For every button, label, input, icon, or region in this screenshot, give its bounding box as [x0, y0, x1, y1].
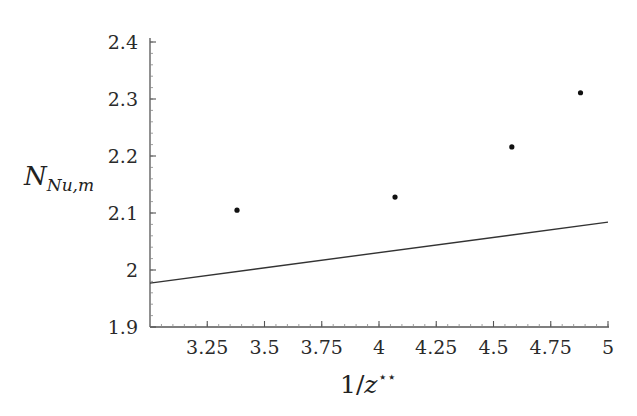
x-tick-label: 4.75 [530, 336, 572, 358]
y-tick-label: 2.4 [108, 31, 138, 53]
x-tick-label: 3.75 [301, 336, 343, 358]
y-tick-label: 1.9 [108, 316, 138, 338]
data-point [578, 90, 583, 95]
data-points [234, 90, 583, 213]
x-axis-label: 1/z⋆⋆ [340, 368, 396, 399]
fit-line-path [150, 222, 608, 283]
y-tick-label: 2 [126, 259, 138, 281]
axes [150, 38, 609, 327]
x-tick-label: 5 [602, 336, 614, 358]
x-tick-label: 3.5 [249, 336, 279, 358]
minor-ticks [150, 42, 608, 327]
data-point [392, 194, 397, 199]
x-tick-label: 3.25 [186, 336, 228, 358]
major-ticks [150, 42, 608, 327]
y-tick-label: 2.1 [108, 202, 138, 224]
x-tick-label: 4.25 [415, 336, 457, 358]
data-point [234, 208, 239, 213]
x-tick-label: 4.5 [478, 336, 508, 358]
y-tick-label: 2.2 [108, 145, 138, 167]
y-axis-label: NNu,m [23, 161, 94, 195]
x-tick-label: 4 [373, 336, 385, 358]
data-point [509, 144, 514, 149]
y-tick-label: 2.3 [108, 88, 138, 110]
x-tick-labels: 3.253.53.7544.254.54.755 [186, 336, 614, 358]
fit-line [150, 222, 608, 283]
y-tick-labels: 1.922.12.22.32.4 [108, 31, 138, 338]
chart: 3.253.53.7544.254.54.755 1.922.12.22.32.… [0, 0, 637, 416]
